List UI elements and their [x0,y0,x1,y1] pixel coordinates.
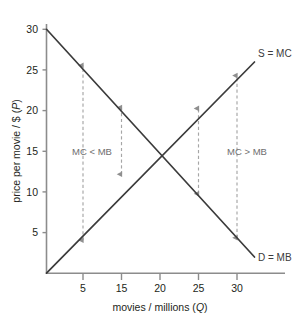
demand-curve [47,29,255,257]
annotation-mc-greater-than-mb: MC > MB [227,146,267,157]
y-axis-title-symbol: P [10,103,22,110]
x-tick-label-25: 25 [193,282,205,294]
y-tick-label-25: 25 [26,64,38,76]
x-tick-label-15: 15 [116,282,128,294]
y-tick-label-10: 10 [26,186,38,198]
x-tick-label-20: 20 [154,282,166,294]
x-axis-title-symbol: Q [196,301,204,313]
x-tick-label-30: 30 [231,282,243,294]
supply-curve [47,62,255,273]
y-tick-label-5: 5 [32,226,38,238]
supply-demand-chart: 5 10 15 20 25 30 5 15 20 25 30 [0,0,307,321]
x-axis-title-tail: ) [204,301,208,313]
y-axis-title-tail: ) [10,99,22,103]
x-axis-ticks [83,273,237,280]
y-tick-label-30: 30 [26,23,38,35]
demand-curve-label: D = MB [258,252,292,263]
chart-svg: 5 10 15 20 25 30 5 15 20 25 30 [0,0,307,321]
x-tick-label-5: 5 [80,282,86,294]
x-axis-title-text: movies / millions ( [112,301,196,313]
annotation-mc-less-than-mb: MC < MB [72,146,112,157]
x-axis-title: movies / millions (Q) [112,301,207,313]
y-axis-title: price per movie / $ (P) [10,99,22,202]
y-tick-label-20: 20 [26,104,38,116]
x-axis-tick-labels: 5 15 20 25 30 [80,282,243,294]
y-tick-label-15: 15 [26,145,38,157]
y-axis-tick-labels: 5 10 15 20 25 30 [26,23,38,238]
y-axis-title-text: price per movie / $ ( [10,109,22,202]
supply-curve-label: S = MC [258,48,292,59]
